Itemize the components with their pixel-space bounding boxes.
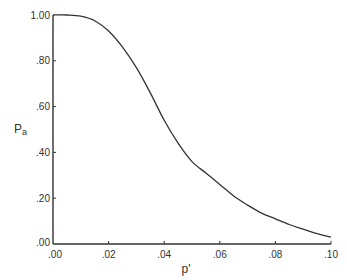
x-tick-label: .00 xyxy=(48,249,62,260)
oc-curve-chart: .00.02.04.06.08.10.00.20.40.60.801.00 p'… xyxy=(0,0,347,280)
x-tick-label: .10 xyxy=(324,249,338,260)
y-tick-label: .80 xyxy=(36,55,50,66)
axes xyxy=(53,15,331,244)
y-tick-label: .40 xyxy=(36,147,50,158)
y-axis-label: Pa xyxy=(14,122,27,137)
y-axis-label-main: P xyxy=(14,122,22,136)
y-tick-label: 1.00 xyxy=(31,10,51,21)
x-tick-label: .06 xyxy=(213,249,227,260)
y-tick-label: .60 xyxy=(36,101,50,112)
x-tick-label: .02 xyxy=(102,249,116,260)
y-axis-label-sub: a xyxy=(22,127,27,137)
y-tick-label: .20 xyxy=(36,193,50,204)
oc-curve-line xyxy=(53,15,331,237)
x-axis-label: p' xyxy=(182,262,191,276)
y-tick-label: .00 xyxy=(36,237,50,248)
x-tick-label: .08 xyxy=(268,249,282,260)
x-tick-label: .04 xyxy=(157,249,171,260)
ticks: .00.02.04.06.08.10.00.20.40.60.801.00 xyxy=(31,10,339,261)
